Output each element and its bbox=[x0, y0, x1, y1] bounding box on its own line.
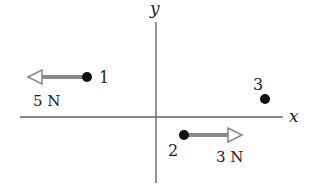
force-diagram: y x 1 5 N 2 3 N 3 bbox=[0, 0, 321, 187]
particle-label-1: 1 bbox=[99, 68, 109, 87]
force-arrowhead-2 bbox=[228, 128, 242, 142]
force-arrow-shaft-1 bbox=[40, 75, 87, 79]
y-axis-label: y bbox=[149, 0, 160, 18]
particle-label-3: 3 bbox=[253, 75, 263, 94]
particle-1: 1 5 N bbox=[28, 68, 109, 110]
particle-dot-3 bbox=[260, 94, 270, 104]
particle-dot-2 bbox=[179, 130, 189, 140]
force-label-1: 5 N bbox=[33, 92, 60, 110]
force-arrow-shaft-2 bbox=[184, 133, 228, 137]
x-axis-label: x bbox=[289, 106, 299, 126]
force-label-2: 3 N bbox=[216, 148, 243, 166]
particle-3: 3 bbox=[253, 75, 270, 104]
particle-dot-1 bbox=[82, 72, 92, 82]
particle-label-2: 2 bbox=[168, 141, 178, 160]
particle-2: 2 3 N bbox=[168, 128, 243, 166]
force-arrowhead-1 bbox=[28, 70, 42, 84]
